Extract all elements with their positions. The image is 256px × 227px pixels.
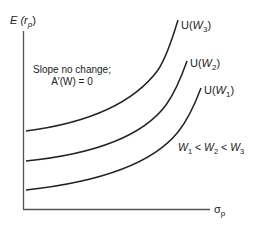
curve-label-w3: U(W3): [181, 19, 211, 34]
annotation-line-1: Slope no change;: [33, 64, 111, 75]
indifference-curve-diagram: E (rp) σp U(W3) U(W2) U(W1) Slope no cha…: [0, 0, 256, 227]
curve-label-w1: U(W1): [204, 84, 234, 99]
wealth-ordering: W1 < W2 < W3: [178, 141, 244, 156]
y-axis-label: E (rp): [10, 14, 36, 29]
utility-curve-w3: [26, 20, 178, 131]
x-axis-label: σp: [214, 203, 226, 218]
utility-curve-w1: [26, 88, 201, 190]
curve-label-w2: U(W2): [190, 57, 220, 72]
annotation-line-2: A′(W) = 0: [51, 76, 93, 87]
